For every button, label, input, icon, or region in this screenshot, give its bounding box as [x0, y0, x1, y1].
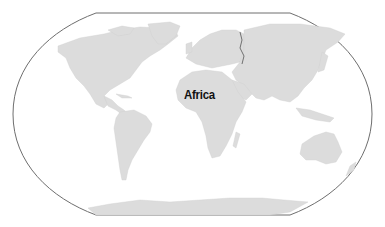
- australia: [300, 132, 342, 164]
- europe: [186, 30, 244, 68]
- south-america: [114, 110, 152, 180]
- madagascar: [233, 132, 240, 148]
- caribbean: [116, 94, 132, 98]
- world-map: [0, 0, 385, 227]
- antarctica: [88, 198, 308, 215]
- southeast-asia-islands: [296, 108, 334, 122]
- british-isles: [186, 42, 192, 54]
- continent-label-africa: Africa: [184, 87, 215, 102]
